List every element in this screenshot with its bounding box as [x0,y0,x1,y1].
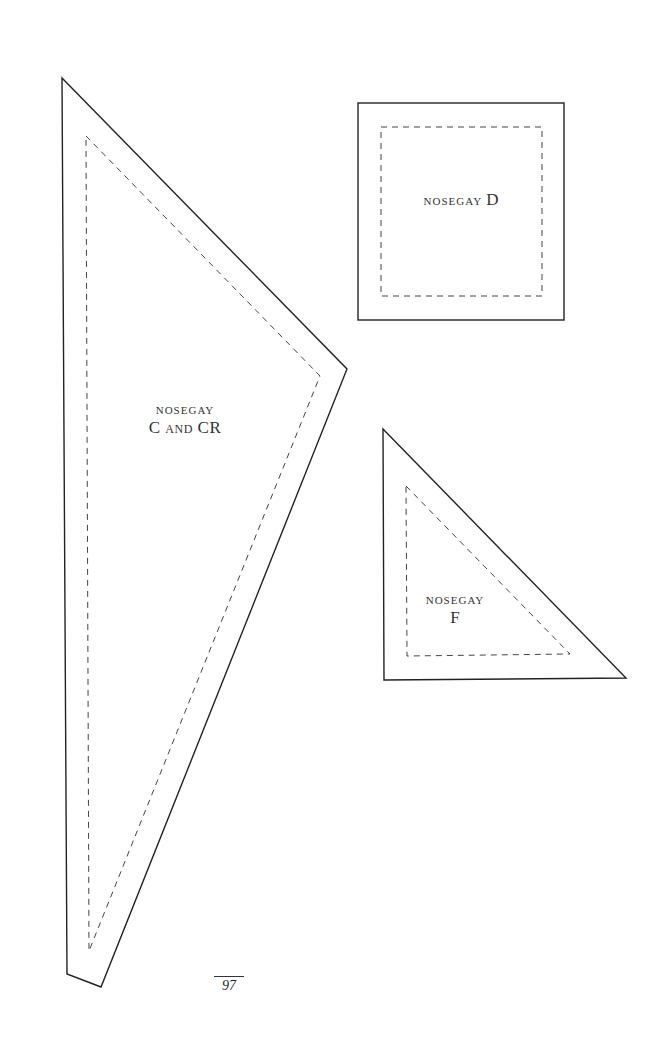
template-d-label: nosegay D [400,190,522,210]
template-f-outline [383,429,626,680]
template-f-label: nosegay F [420,594,490,628]
template-f-label-line2: F [420,608,490,628]
template-f-seam-line [406,486,570,656]
template-f-label-line1: nosegay [420,594,490,606]
template-d-label-line1: nosegay [424,195,483,207]
template-c-outline [62,78,347,987]
template-c-label-line2: C and CR [130,418,240,438]
template-c-label: nosegay C and CR [130,404,240,438]
template-d-outline [358,103,564,320]
template-shapes [0,0,667,1041]
template-c-label-line1: nosegay [130,404,240,416]
template-d-seam-line [381,127,542,296]
page-number: 97 [214,976,244,994]
template-d-label-letter: D [486,190,498,209]
template-c-seam-line [86,136,320,951]
